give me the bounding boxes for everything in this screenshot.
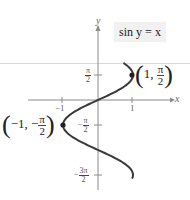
y-tick-label-neg-3pi-half: −3π2 xyxy=(74,167,89,184)
tick-denominator: 2 xyxy=(86,76,90,84)
annotation-prefix: 1, xyxy=(144,66,154,81)
x-axis-label: x xyxy=(175,93,179,104)
tick-denominator: 2 xyxy=(84,126,88,134)
y-tick-label-neg-pi-half: −π2 xyxy=(78,117,89,134)
y-tick-label-pi-half: π2 xyxy=(85,67,91,84)
annotation-point-neg1-neg-pi-half: (−1, −π2) xyxy=(2,112,55,138)
tick-denominator: 2 xyxy=(82,176,86,184)
right-paren: ) xyxy=(164,60,173,89)
left-paren: ( xyxy=(2,110,11,139)
annotation-denominator: 2 xyxy=(39,126,45,137)
equation-label: sin y = x xyxy=(114,22,166,42)
x-tick-label-neg1: −1 xyxy=(55,103,65,113)
annotation-denominator: 2 xyxy=(158,76,164,87)
point-1-pi-half xyxy=(129,72,134,77)
left-paren: ( xyxy=(135,60,144,89)
y-axis-label: y xyxy=(96,15,100,26)
x-tick-label-1: 1 xyxy=(130,103,135,113)
point-neg1-neg-pi-half xyxy=(60,122,65,127)
annotation-numerator: π xyxy=(38,114,46,126)
annotation-prefix: −1, − xyxy=(11,116,39,131)
annotation-point-1-pi-half: (1, π2) xyxy=(135,62,173,88)
right-paren: ) xyxy=(46,110,55,139)
